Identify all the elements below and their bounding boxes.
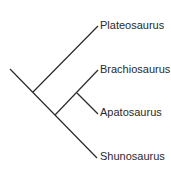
taxon-label-brachiosaurus: Brachiosaurus <box>100 64 170 75</box>
taxon-label-apatosaurus: Apatosaurus <box>100 107 162 118</box>
taxon-label-plateosaurus: Plateosaurus <box>100 20 164 31</box>
branch-apatosaurus <box>77 93 98 114</box>
main-stem <box>10 69 97 158</box>
taxon-label-shunosaurus: Shunosaurus <box>100 151 165 162</box>
branch-plateosaurus <box>33 26 98 92</box>
